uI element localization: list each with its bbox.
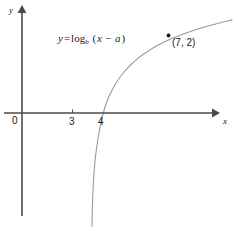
equation-equals: = — [63, 32, 71, 44]
log-curve — [92, 20, 232, 227]
y-axis-label: y — [9, 6, 13, 15]
equation-annotation: y=logb (x − a) — [58, 33, 126, 46]
origin-label: 0 — [12, 116, 18, 126]
equation-paren-close: ) — [120, 32, 126, 44]
point-marker-7-2 — [167, 34, 171, 38]
log-function-graph-figure: y x 0 3 4 y=logb (x − a) (7, 2) — [0, 0, 234, 227]
y-axis-arrowhead — [18, 5, 27, 13]
x-axis-label: x — [223, 117, 227, 126]
x-tick-label-3: 3 — [69, 117, 75, 127]
x-axis-arrowhead — [212, 109, 220, 118]
equation-function-name: log — [71, 32, 85, 44]
equation-log-base: b — [85, 38, 89, 46]
equation-argument: x − a — [97, 32, 120, 44]
point-coordinate-label: (7, 2) — [172, 38, 195, 48]
x-tick-label-4: 4 — [98, 117, 104, 127]
